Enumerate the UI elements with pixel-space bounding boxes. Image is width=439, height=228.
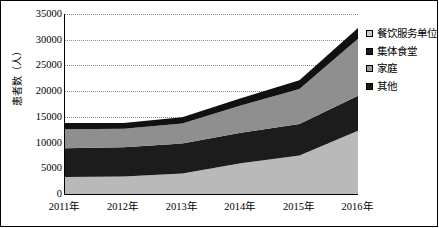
legend-label: 家庭: [377, 63, 397, 74]
y-axis-tick-label: 25000: [22, 60, 62, 70]
legend-item: 其他: [366, 80, 437, 93]
y-axis-tick-label: 5000: [22, 163, 62, 173]
x-axis-tick-label: 2011年: [36, 198, 92, 213]
y-axis-tick-label: 20000: [22, 86, 62, 96]
chart-legend: 餐饮服务单位集体食堂家庭其他: [366, 27, 437, 93]
y-axis-tick-label: 10000: [22, 138, 62, 148]
legend-label: 其他: [377, 81, 397, 92]
y-axis-tick-label: 35000: [22, 9, 62, 19]
legend-item: 家庭: [366, 62, 437, 75]
x-axis-tick-label: 2014年: [212, 198, 268, 213]
legend-swatch-icon: [366, 48, 373, 55]
y-axis-tick-label: 15000: [22, 112, 62, 122]
x-axis-tick-label: 2015年: [270, 198, 326, 213]
legend-label: 集体食堂: [377, 46, 417, 57]
legend-item: 餐饮服务单位: [366, 27, 437, 40]
legend-swatch-icon: [366, 30, 373, 37]
x-axis-tick-label: 2012年: [95, 198, 151, 213]
x-axis-tick-label: 2016年: [329, 198, 385, 213]
legend-swatch-icon: [366, 83, 373, 90]
legend-swatch-icon: [366, 65, 373, 72]
stacked-area-chart: 患者数（人） 050001000015000200002500030000350…: [0, 0, 439, 228]
legend-label: 餐饮服务单位: [377, 28, 437, 39]
x-axis-tick-label: 2013年: [153, 198, 209, 213]
legend-item: 集体食堂: [366, 45, 437, 58]
plot-area: [64, 14, 358, 195]
y-axis-tick-label: 30000: [22, 35, 62, 45]
area-series-layer: [65, 14, 358, 194]
